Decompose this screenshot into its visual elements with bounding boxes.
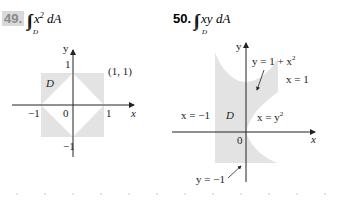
- x-axis-label: x: [310, 133, 316, 145]
- y-axis-label: y: [236, 40, 242, 52]
- x-axis-label: x: [130, 107, 136, 119]
- figures-canvas: y x 1 −1 −1 1 0 (1, 1) D y x 0 D y = 1 +…: [0, 0, 337, 203]
- label-bottom-line: y = −1: [196, 173, 225, 185]
- origin-label: 0: [237, 134, 243, 146]
- origin-label: 0: [63, 107, 69, 119]
- label-left-line: x = −1: [181, 109, 210, 121]
- tick-y-1: 1: [65, 58, 71, 70]
- region-label: D: [225, 109, 234, 121]
- figure-49: y x 1 −1 −1 1 0 (1, 1) D: [12, 42, 136, 157]
- tick-x-neg1: −1: [28, 107, 40, 119]
- tick-x-1: 1: [106, 107, 112, 119]
- y-axis-label: y: [63, 42, 69, 54]
- label-right-line: x = 1: [286, 73, 309, 85]
- label-top-curve: y = 1 + x2: [252, 54, 296, 67]
- tick-y-neg1: −1: [63, 140, 75, 152]
- region-label: D: [45, 77, 54, 89]
- bottom-line-pointer-arrow: [228, 166, 241, 178]
- scan-artifact-dots: [16, 193, 326, 195]
- figure-50: y x 0 D y = 1 + x2 x = 1 x = −1 x = y2 y…: [172, 40, 316, 185]
- point-label: (1, 1): [108, 65, 132, 78]
- label-parabola: x = y2: [257, 110, 284, 123]
